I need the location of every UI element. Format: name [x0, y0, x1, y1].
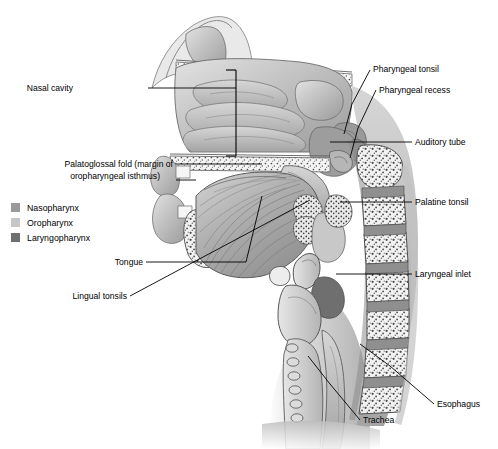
label-pharyngeal-tonsil: Pharyngeal tonsil [373, 64, 439, 74]
head-neck-sagittal-diagram: Nasal cavity Palatoglossal fold (margin … [0, 0, 498, 449]
disc [364, 224, 406, 236]
label-nasal-cavity: Nasal cavity [27, 83, 74, 93]
tracheal-ring [287, 358, 299, 366]
label-tongue: Tongue [115, 257, 143, 267]
vertebra-c4 [366, 270, 409, 302]
label-auditory-tube: Auditory tube [415, 137, 466, 147]
tracheal-ring [288, 372, 300, 380]
disc [362, 186, 404, 198]
tracheal-ring [290, 400, 302, 408]
label-trachea: Trachea [363, 415, 394, 425]
legend-swatch-nasopharynx [11, 203, 20, 212]
tracheal-ring [289, 386, 301, 394]
label-palatine-tonsil: Palatine tonsil [415, 197, 469, 207]
hyoid-bone [270, 266, 291, 285]
legend-label-nasopharynx: Nasopharynx [27, 203, 79, 213]
palatine-tonsil [325, 195, 352, 227]
label-palatoglossal-fold-line2: oropharyngeal isthmus) [70, 171, 160, 181]
legend-label-laryngopharynx: Laryngopharynx [27, 233, 91, 243]
label-lingual-tonsils: Lingual tonsils [73, 291, 127, 301]
disc [363, 376, 406, 388]
disc [367, 300, 409, 312]
label-pharyngeal-recess: Pharyngeal recess [379, 85, 450, 95]
legend-swatch-oropharynx [11, 218, 20, 227]
vertebra-c3 [364, 232, 408, 264]
legend-swatch-laryngopharynx [11, 233, 20, 242]
disc [366, 338, 409, 350]
vertebra-c6 [364, 346, 408, 378]
label-palatoglossal-fold-line1: Palatoglossal fold (margin of [65, 159, 174, 169]
label-esophagus: Esophagus [437, 399, 480, 409]
legend-label-oropharynx: Oropharynx [27, 218, 74, 228]
tracheal-ring [286, 344, 298, 352]
vertebra-c5 [367, 308, 409, 340]
label-laryngeal-inlet: Laryngeal inlet [415, 269, 472, 279]
vertebra-c2 [362, 194, 406, 226]
disc [366, 262, 408, 274]
vertebra-c7 [359, 384, 404, 414]
upper-incisor [176, 166, 190, 178]
